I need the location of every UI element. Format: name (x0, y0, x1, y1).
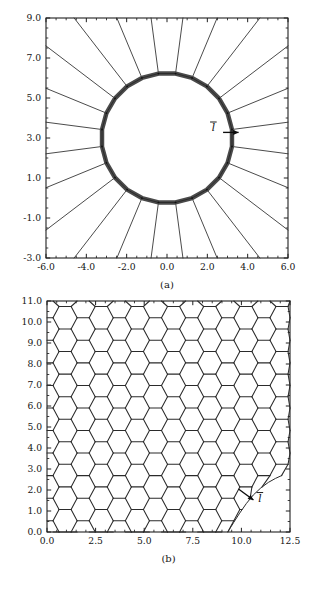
panel-b-label: l (258, 492, 261, 504)
hex-edge (216, 352, 222, 363)
hex-edge (53, 385, 59, 396)
hex-edge (270, 408, 276, 419)
y-tick-label: 5.0 (26, 92, 41, 103)
y-tick-label: 3.0 (27, 463, 42, 474)
hex-edge (252, 476, 258, 487)
hex-edge (53, 408, 59, 419)
hex-edge (270, 431, 276, 442)
x-tick-label: 10.0 (231, 535, 252, 546)
hex-edge (180, 397, 186, 408)
x-tick-label: 4.0 (240, 261, 255, 272)
mesh-spoke (232, 122, 288, 129)
hex-edge (270, 464, 276, 475)
hex-edge (143, 453, 149, 464)
ring-vertex (114, 98, 116, 100)
hex-edge (216, 385, 222, 396)
hex-edge (89, 318, 95, 329)
hex-edge (107, 498, 113, 509)
hex-edge (252, 419, 258, 430)
hex-edge (252, 301, 258, 306)
hex-edge (125, 453, 131, 464)
hex-edge (198, 521, 204, 532)
hex-edge (180, 509, 186, 520)
hex-edge (143, 385, 149, 396)
hex-edge (143, 419, 149, 430)
hex-edge (162, 521, 168, 532)
hex-edge (234, 498, 240, 509)
hex-edge (270, 374, 276, 385)
panel-b-caption: (b) (161, 553, 175, 564)
hex-edge (216, 408, 222, 419)
hex-edge (107, 363, 113, 374)
hex-edge (143, 442, 149, 453)
mesh-spoke (192, 198, 217, 258)
y-tick-label: 7.0 (27, 379, 42, 390)
mesh-spoke (207, 18, 260, 86)
hex-edge (53, 464, 59, 475)
hex-edge (216, 476, 222, 487)
hex-edge (71, 363, 77, 374)
hex-edge (143, 408, 149, 419)
hex-edge (180, 498, 186, 509)
x-tick-label: -2.0 (118, 261, 136, 272)
hex-edge (71, 318, 77, 329)
hex-edge (125, 352, 131, 363)
hex-edge (198, 374, 204, 385)
hex-edge (89, 397, 95, 408)
hex-edge (125, 476, 131, 487)
ring-vertex (158, 202, 160, 204)
hex-edge (162, 487, 168, 498)
mesh-spoke (176, 18, 183, 74)
hex-edge (198, 464, 204, 475)
mesh-spoke (46, 163, 106, 188)
hex-edge (107, 340, 113, 351)
hex-edge (162, 453, 168, 464)
hex-edge (107, 352, 113, 363)
hex-edge (53, 306, 59, 317)
hex-edge (216, 431, 222, 442)
hex-edge (234, 363, 240, 374)
ring-vertex (126, 189, 128, 191)
hex-edge (125, 464, 131, 475)
ring-vertex (206, 86, 208, 88)
free-boundary-curve (228, 475, 282, 532)
hex-edge (143, 498, 149, 509)
hex-edge (143, 509, 149, 520)
hex-edge (270, 318, 276, 329)
hex-edge (125, 385, 131, 396)
hex-edge (234, 352, 240, 363)
hex-edge (89, 385, 95, 396)
ring-vertex (126, 86, 128, 88)
hex-edge (71, 464, 77, 475)
mesh-spoke (46, 88, 106, 113)
hex-edge (107, 442, 113, 453)
plot-border (46, 18, 288, 258)
hex-edge (107, 301, 113, 306)
ring-vertex (227, 112, 229, 114)
y-tick-label: 8.0 (27, 358, 42, 369)
ring-vertex (191, 77, 193, 79)
hex-edge (71, 442, 77, 453)
x-tick-label: 6.0 (281, 261, 296, 272)
hex-edge (107, 476, 113, 487)
y-tick-label: 4.0 (27, 442, 42, 453)
hex-edge (180, 329, 186, 340)
hex-edge (71, 329, 77, 340)
hex-edge (162, 419, 168, 430)
hex-edge (216, 521, 222, 532)
hex-edge (234, 385, 240, 396)
mesh-spoke (151, 202, 158, 258)
hex-edge (198, 397, 204, 408)
hex-edge (180, 385, 186, 396)
hex-edge (107, 487, 113, 498)
hex-edge (89, 363, 95, 374)
axes-frame: 0.02.55.07.510.012.50.01.02.03.04.05.06.… (22, 296, 301, 546)
hex-edge (89, 408, 95, 419)
hex-edge (107, 306, 113, 317)
hex-edge (89, 521, 95, 532)
hex-edge (53, 509, 59, 520)
hex-edge (143, 431, 149, 442)
x-tick-label: 7.5 (185, 535, 200, 546)
hex-edge (216, 419, 222, 430)
mesh-spoke (207, 190, 260, 258)
